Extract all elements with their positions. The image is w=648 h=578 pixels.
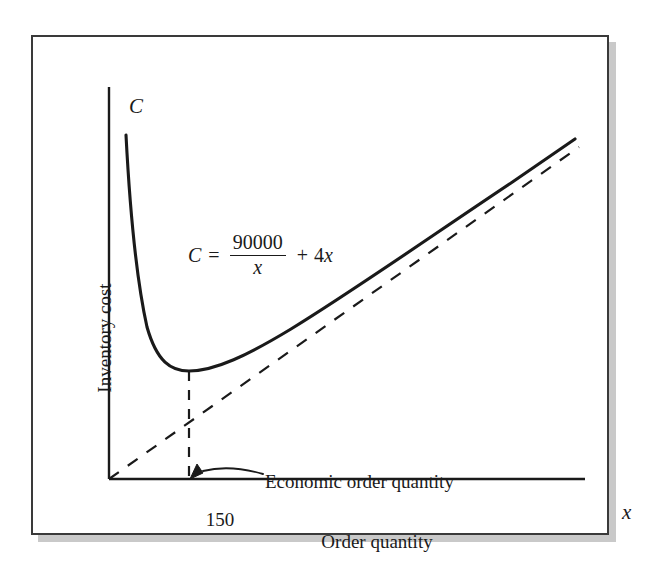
equation-fraction: 90000 x [230, 232, 286, 279]
figure-frame: C x Inventory cost Order quantity 150 Ec… [31, 35, 609, 535]
asymptote-dashed-line [109, 147, 579, 479]
equation-variable: x [324, 244, 333, 266]
equation-equals-sign: = [208, 244, 219, 267]
x-axis-letter: x [622, 500, 631, 525]
figure-page: C x Inventory cost Order quantity 150 Ec… [0, 0, 648, 578]
eoq-arrow [203, 468, 263, 474]
cost-equation: C = 90000 x + 4x [188, 232, 333, 279]
x-tick-label-150: 150 [188, 509, 252, 531]
inventory-cost-plot [33, 37, 607, 533]
equation-plus-sign: + [297, 244, 308, 267]
equation-lhs: C [188, 244, 201, 267]
economic-order-quantity-annotation: Economic order quantity [265, 471, 454, 493]
equation-denominator: x [250, 257, 265, 279]
equation-coefficient: 4 [314, 244, 324, 266]
equation-numerator: 90000 [230, 232, 286, 254]
eoq-arrowhead [190, 464, 203, 479]
equation-linear-term: 4x [314, 244, 333, 267]
y-axis-letter: C [129, 94, 143, 119]
x-axis-label: Order quantity [257, 531, 497, 553]
y-axis-label: Inventory cost [94, 248, 116, 428]
